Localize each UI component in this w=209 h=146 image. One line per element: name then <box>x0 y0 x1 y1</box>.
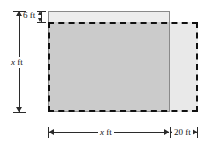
top-offset-arrow-up-icon <box>38 11 42 15</box>
extension-right-tick <box>197 127 198 138</box>
extension-width-label: 20 ft <box>172 127 193 138</box>
enlarged-plot-outline <box>48 22 198 112</box>
top-offset-arrow-down-icon <box>38 18 42 22</box>
height-bottom-tick <box>13 112 26 113</box>
height-label: x ft <box>9 57 25 68</box>
width-left-tick <box>48 127 49 138</box>
geometry-figure: x ft 6 ft x ft 20 ft <box>0 0 209 146</box>
top-offset-lower-tick <box>37 22 46 23</box>
width-arrow-left-icon <box>49 129 54 135</box>
width-arrow-right-icon <box>164 129 169 135</box>
extension-left-tick <box>170 127 171 138</box>
width-label: x ft <box>98 127 114 138</box>
top-offset-label: 6 ft <box>23 11 35 20</box>
height-unit: ft <box>15 57 23 67</box>
width-unit: ft <box>104 127 112 137</box>
